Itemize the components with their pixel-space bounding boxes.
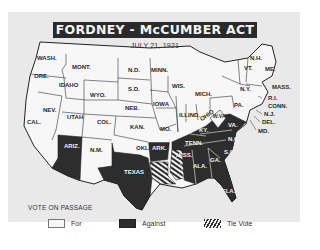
label-iowa: IOWA [153,101,170,107]
label-neb: NEB. [125,105,140,111]
label-del: DEL. [262,119,276,125]
label-wva: W.VA. [213,113,227,119]
label-col: COL. [97,119,112,125]
legend-title: VOTE ON PASSAGE [28,204,93,211]
label-ark: ARK. [152,145,167,151]
label-nh: N.H. [250,55,262,61]
legend-item-tie: Tie Vote [204,217,252,229]
label-tenn: TENN. [185,140,203,146]
label-wyo: WYO. [90,92,106,98]
label-fla: FLA. [222,188,236,194]
label-cal: CAL. [27,119,41,125]
label-ore: ORE. [34,73,49,79]
label-ariz: ARIZ. [64,143,80,149]
label-nd: N.D. [128,67,140,73]
legend-label-tie: Tie Vote [227,220,252,227]
label-nj: N.J. [264,111,275,117]
legend-label-for: For [71,220,82,227]
label-mo: MO. [160,126,172,132]
label-idaho: IDAHO [59,82,79,88]
legend-swatch-against [119,219,136,228]
label-utah: UTAH [67,114,83,120]
label-ky: KY. [199,127,209,133]
label-mont: MONT. [72,64,91,70]
label-texas: TEXAS [124,169,144,175]
label-me: ME. [265,66,276,72]
label-ga: GA. [210,157,221,163]
legend-item-against: Against [119,217,165,229]
map-date: JULY 21, 1921 [120,42,190,49]
label-ny: N.Y. [240,86,251,92]
legend-item-for: For [48,217,82,229]
legend-label-against: Against [142,220,165,227]
label-conn: CONN. [268,103,288,109]
label-nc: N.C. [228,136,240,142]
label-nev: NEV. [43,107,57,113]
label-mich: MICH. [195,91,212,97]
label-va: VA. [228,122,238,128]
legend-swatch-for [48,219,65,228]
label-sd: S.D. [128,86,140,92]
label-sc: S.C. [224,149,236,155]
label-mass: MASS. [272,84,291,90]
label-miss: MISS. [176,152,193,158]
label-pa: PA. [234,102,244,108]
label-md: MD. [258,128,269,134]
label-nm: N.M. [90,147,103,153]
label-minn: MINN. [151,67,168,73]
label-vt: VT. [244,65,253,71]
label-wash: WASH. [37,55,57,61]
label-wis: WIS. [172,83,185,89]
label-ala: ALA. [193,163,207,169]
label-kan: KAN. [130,124,145,130]
map-title: FORDNEY - McCUMBER ACT [53,22,257,38]
label-ri: R.I. [268,95,278,101]
legend-swatch-tie [204,219,221,228]
